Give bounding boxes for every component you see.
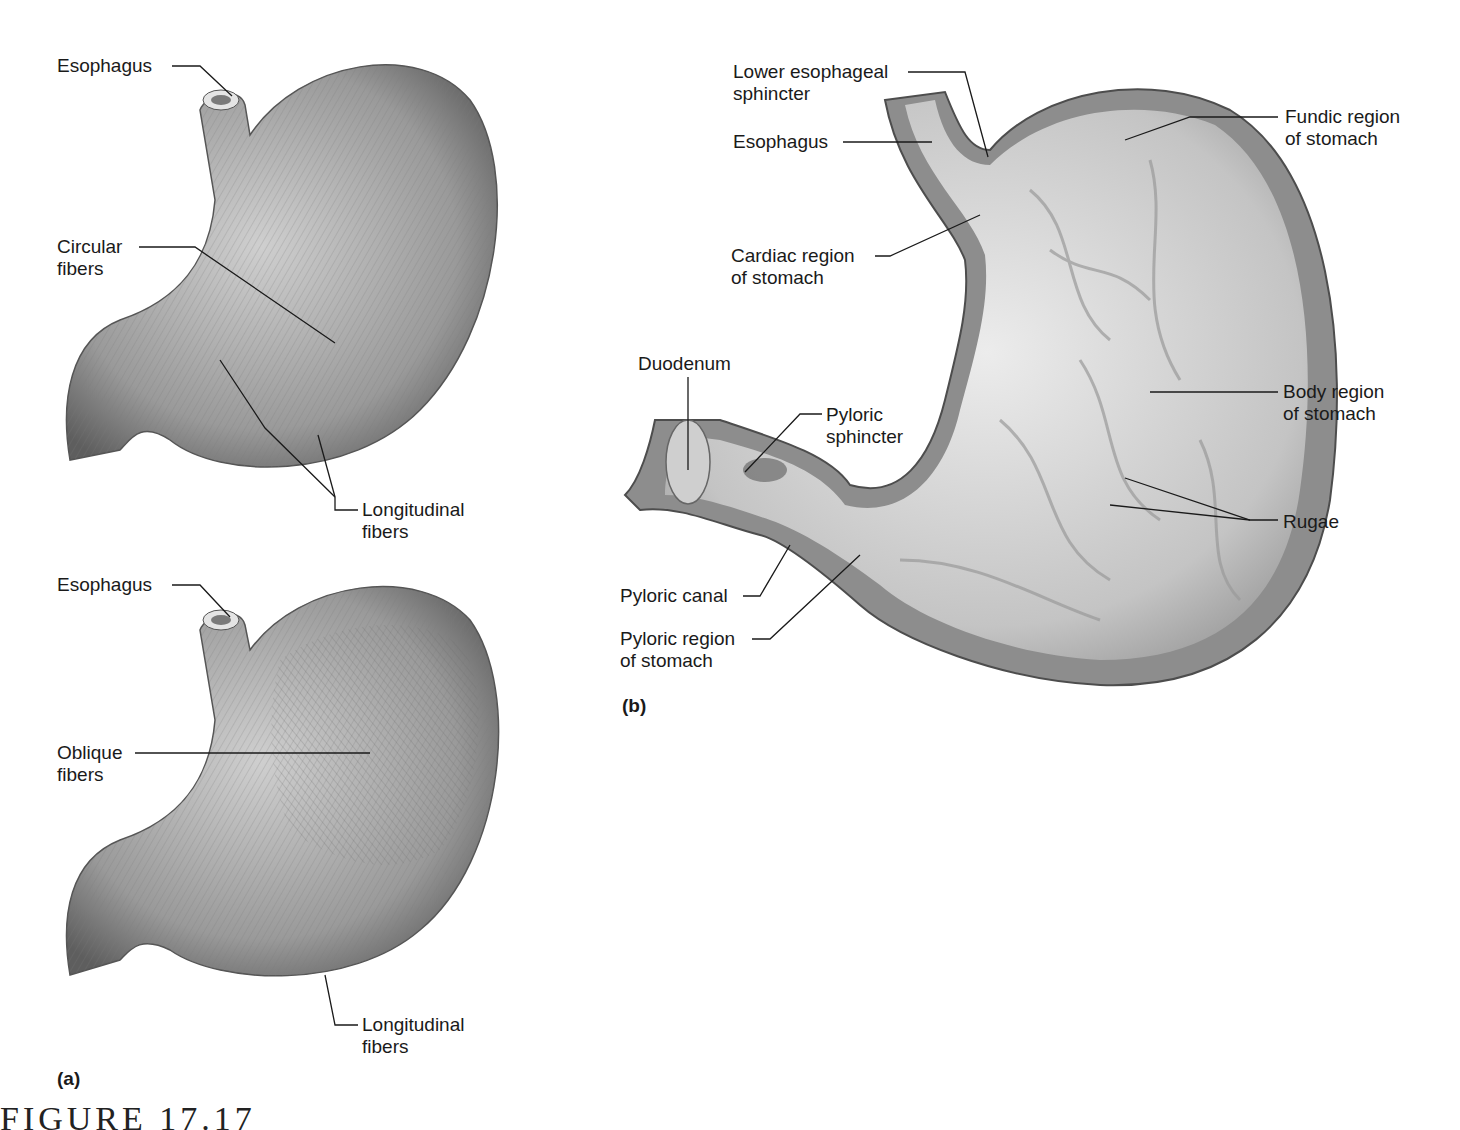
label-cardiac-region: Cardiac region of stomach xyxy=(731,245,855,289)
label-esophagus-a-bottom: Esophagus xyxy=(57,574,152,596)
label-esophagus-a-top: Esophagus xyxy=(57,55,152,77)
label-longitudinal-fibers-top: Longitudinal fibers xyxy=(362,499,464,543)
label-rugae: Rugae xyxy=(1283,511,1339,533)
stomach-a-bottom xyxy=(67,587,499,976)
stomach-b-section xyxy=(625,89,1337,685)
label-pyloric-sphincter: Pyloric sphincter xyxy=(826,404,903,448)
panel-label-a: (a) xyxy=(57,1068,80,1090)
label-body-region: Body region of stomach xyxy=(1283,381,1384,425)
label-pyloric-canal: Pyloric canal xyxy=(620,585,728,607)
stomach-a-top xyxy=(67,65,498,467)
label-esophagus-b: Esophagus xyxy=(733,131,828,153)
label-lower-esophageal-sphincter: Lower esophageal sphincter xyxy=(733,61,888,105)
panel-label-b: (b) xyxy=(622,695,646,717)
stomach-illustrations xyxy=(0,0,1460,1130)
figure-caption: FIGURE 17.17 xyxy=(0,1100,256,1130)
label-duodenum: Duodenum xyxy=(638,353,731,375)
label-circular-fibers: Circular fibers xyxy=(57,236,122,280)
label-pyloric-region: Pyloric region of stomach xyxy=(620,628,735,672)
label-longitudinal-fibers-bottom: Longitudinal fibers xyxy=(362,1014,464,1058)
label-fundic-region: Fundic region of stomach xyxy=(1285,106,1400,150)
label-oblique-fibers: Oblique fibers xyxy=(57,742,123,786)
